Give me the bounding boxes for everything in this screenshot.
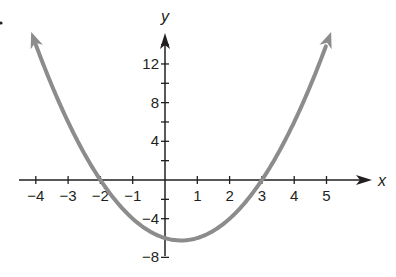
y-tick-label: −8 [142, 248, 159, 265]
x-tick-label: 4 [290, 187, 298, 204]
x-tick-label: 1 [193, 187, 201, 204]
y-axis-label: y [160, 8, 170, 25]
x-tick-label: 2 [225, 187, 233, 204]
y-tick-label: 4 [151, 132, 159, 149]
parabola-curve [36, 45, 326, 241]
x-tick-label: −3 [60, 187, 77, 204]
x-tick-label: −1 [124, 187, 141, 204]
y-tick-label: 8 [151, 94, 159, 111]
x-tick-label: 5 [322, 187, 330, 204]
x-tick-label: −4 [27, 187, 44, 204]
bullet-dot [0, 21, 3, 24]
y-tick-label: −4 [142, 210, 159, 227]
x-tick-label: 3 [258, 187, 266, 204]
parabola-chart: −4−3−2−1123451284−4−8 x y [0, 0, 396, 277]
y-tick-label: 12 [142, 55, 159, 72]
x-axis-label: x [377, 172, 387, 189]
tick-labels: −4−3−2−1123451284−4−8 [27, 55, 330, 265]
tick-marks [36, 45, 327, 258]
